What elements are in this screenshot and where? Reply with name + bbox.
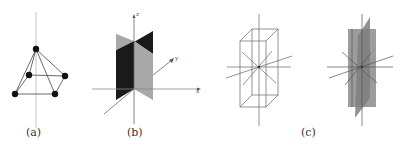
panel-label-b: (b) — [127, 126, 143, 139]
z-axis-label: z — [136, 10, 139, 17]
x-axis-label: x — [196, 87, 200, 94]
panel-c-mirror-planes — [327, 14, 393, 126]
y-axis-label: y — [174, 54, 179, 62]
vertex-dot — [12, 91, 18, 97]
vertex-dot — [26, 72, 32, 78]
panel-label-c: (c) — [301, 126, 316, 139]
vertex-dot — [62, 73, 68, 79]
y-axis — [153, 60, 172, 75]
vertex-dot — [33, 46, 39, 52]
figure-canvas: z y x — [0, 0, 405, 154]
panel-b-planes: z y x — [92, 10, 201, 124]
panel-a-pyramid — [12, 12, 68, 128]
panel-label-a: (a) — [26, 126, 41, 139]
vertex-dot — [52, 91, 58, 97]
panel-c-prism — [226, 14, 292, 126]
